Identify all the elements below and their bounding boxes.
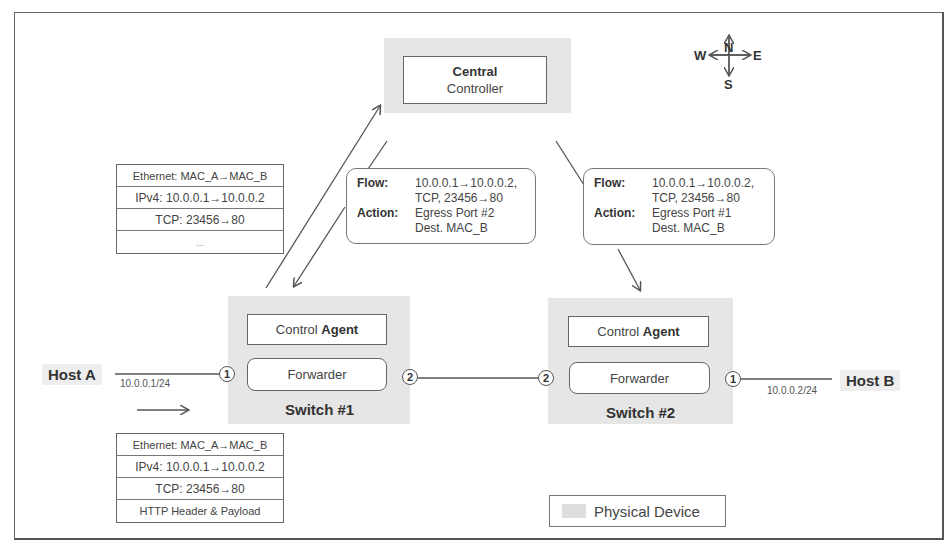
central-controller-box: Central Controller xyxy=(403,56,547,104)
action-value: Egress Port #1 xyxy=(652,206,731,221)
flow-value-2: TCP, 23456→80 xyxy=(652,191,740,206)
action-value-2: Dest. MAC_B xyxy=(652,221,725,236)
switch1-forwarder: Forwarder xyxy=(247,358,387,391)
packet-row: ... xyxy=(117,231,283,252)
flow-value: 10.0.0.1→10.0.0.2, xyxy=(415,176,517,191)
action-value: Egress Port #2 xyxy=(415,206,494,221)
packet-row: Ethernet: MAC_A→MAC_B xyxy=(117,165,283,187)
agent-label: Control xyxy=(597,324,639,339)
controller-title: Central xyxy=(453,63,498,80)
packet-row: IPv4: 10.0.0.1→10.0.0.2 xyxy=(117,187,283,209)
switch2-port-2: 2 xyxy=(538,370,554,386)
agent-label-bold: Agent xyxy=(321,322,358,337)
controller-subtitle: Controller xyxy=(447,80,503,97)
switch1-port-2: 2 xyxy=(402,369,418,385)
flow-value: 10.0.0.1→10.0.0.2, xyxy=(652,176,754,191)
action-key: Action: xyxy=(357,206,415,221)
flow-value-2: TCP, 23456→80 xyxy=(415,191,503,206)
action-value-2: Dest. MAC_B xyxy=(415,221,488,236)
legend-label: Physical Device xyxy=(594,503,700,520)
switch2-forwarder: Forwarder xyxy=(569,362,710,394)
agent-label: Control xyxy=(276,322,318,337)
physical-device-swatch xyxy=(562,504,586,518)
switch1-port-1: 1 xyxy=(219,366,235,382)
packet-row: TCP: 23456→80 xyxy=(117,209,283,231)
packet-row: IPv4: 10.0.0.1→10.0.0.2 xyxy=(117,456,283,478)
flow-rule-switch2: Flow:10.0.0.1→10.0.0.2, TCP, 23456→80 Ac… xyxy=(583,168,775,245)
switch2-label: Switch #2 xyxy=(606,404,675,421)
switch1-label: Switch #1 xyxy=(285,401,354,418)
forwarder-label: Forwarder xyxy=(610,371,669,386)
packet-row: Ethernet: MAC_A→MAC_B xyxy=(117,434,283,456)
host-a: Host A xyxy=(42,364,102,385)
switch2-port-1: 1 xyxy=(725,371,741,387)
agent-label-bold: Agent xyxy=(643,324,680,339)
compass-south: S xyxy=(724,77,733,92)
compass-north: N xyxy=(724,40,733,55)
host-a-ip: 10.0.0.1/24 xyxy=(120,378,170,389)
host-b-ip: 10.0.0.2/24 xyxy=(767,385,817,396)
packet-row: TCP: 23456→80 xyxy=(117,478,283,500)
compass-east: E xyxy=(753,48,762,63)
host-b: Host B xyxy=(840,370,900,391)
legend: Physical Device xyxy=(549,495,726,527)
flow-rule-switch1: Flow:10.0.0.1→10.0.0.2, TCP, 23456→80 Ac… xyxy=(346,168,536,244)
forwarder-label: Forwarder xyxy=(287,367,346,382)
compass-west: W xyxy=(694,48,706,63)
switch1-control-agent: Control Agent xyxy=(247,314,387,345)
flow-key: Flow: xyxy=(594,176,652,191)
packet-row: HTTP Header & Payload xyxy=(117,500,283,521)
packet-header-top: Ethernet: MAC_A→MAC_B IPv4: 10.0.0.1→10.… xyxy=(116,164,284,254)
flow-key: Flow: xyxy=(357,176,415,191)
switch2-control-agent: Control Agent xyxy=(568,316,709,347)
packet-header-bottom: Ethernet: MAC_A→MAC_B IPv4: 10.0.0.1→10.… xyxy=(116,433,284,523)
action-key: Action: xyxy=(594,206,652,221)
